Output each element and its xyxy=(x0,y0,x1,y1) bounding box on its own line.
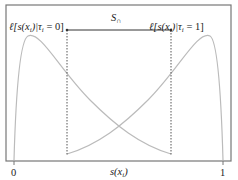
label-interval-s-cap: S∩ xyxy=(111,13,121,25)
label-likelihood-tau-1: ℓ[s(xi)|τi = 1] xyxy=(149,22,204,34)
curve-tau-1 xyxy=(67,35,223,160)
curve-tau-0 xyxy=(14,35,171,160)
tick-label-1: 1 xyxy=(220,168,225,179)
label-likelihood-tau-0: ℓ[s(xi)|τi = 0] xyxy=(9,22,64,34)
interval-left-dot xyxy=(66,29,69,32)
tick-label-0: 0 xyxy=(11,168,16,179)
x-axis-label: s(xi) xyxy=(110,167,128,179)
